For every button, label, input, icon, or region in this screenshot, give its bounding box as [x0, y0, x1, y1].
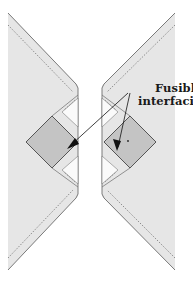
fusible-interfacing-label: Fusible interfacing — [138, 82, 193, 108]
mitered-corner-diagram — [0, 0, 193, 285]
marker-dot — [127, 140, 129, 142]
label-line-2: interfacing — [138, 95, 193, 108]
